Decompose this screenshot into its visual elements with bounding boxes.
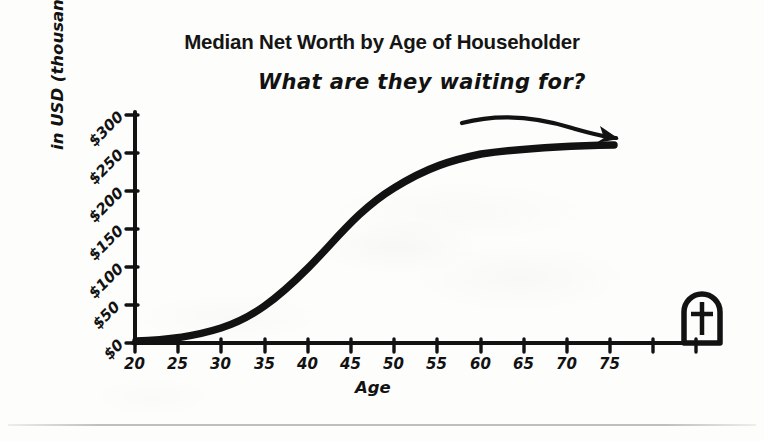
x-tick-label-20: 20 — [124, 355, 145, 373]
annotation-arrow-shaft — [462, 118, 616, 138]
x-axis-title: Age — [355, 378, 391, 397]
plot-area — [0, 0, 764, 441]
x-tick-label-75: 75 — [599, 355, 620, 373]
x-tick-label-30: 30 — [210, 355, 231, 373]
x-tick-label-25: 25 — [167, 355, 188, 373]
bottom-rule — [8, 424, 756, 426]
x-tick-label-40: 40 — [297, 355, 318, 373]
x-tick-label-45: 45 — [340, 355, 361, 373]
tombstone-icon — [684, 294, 720, 343]
y-axis-title: in USD (thousands) — [48, 0, 67, 150]
x-tick-label-65: 65 — [513, 355, 534, 373]
x-tick-label-35: 35 — [254, 355, 275, 373]
net-worth-curve — [136, 145, 614, 341]
x-tick-label-60: 60 — [470, 355, 491, 373]
x-tick-label-50: 50 — [383, 355, 404, 373]
chart-page: Median Net Worth by Age of Householder W… — [0, 0, 764, 441]
x-tick-label-70: 70 — [556, 355, 577, 373]
x-tick-label-55: 55 — [426, 355, 447, 373]
